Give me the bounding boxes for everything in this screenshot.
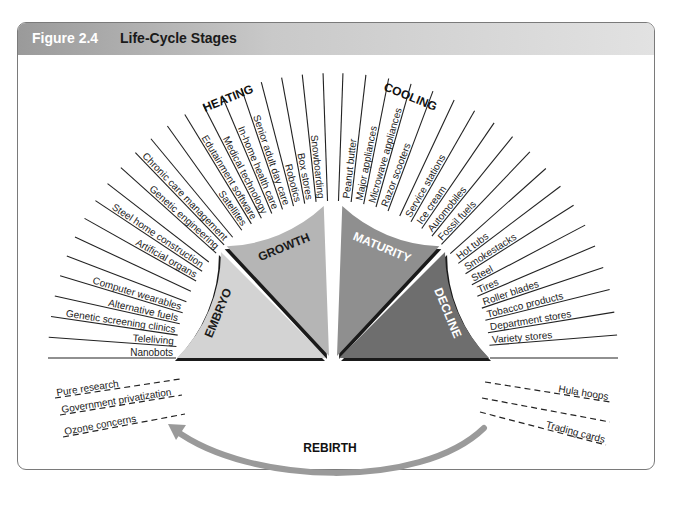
item-label: Nanobots (130, 347, 173, 358)
life-cycle-diagram: EMBRYOGROWTHMATURITYDECLINE NanobotsTele… (0, 0, 674, 512)
rebirth-item-label: Hula hoops (558, 383, 610, 402)
radial-line (458, 186, 560, 263)
rebirth-item-label: Trading cards (545, 419, 607, 445)
rebirth-item-label: Ozone concerns (63, 413, 137, 437)
rebirth-right-items: Hula hoopsTrading cards (480, 382, 610, 445)
rebirth-left-items: Pure researchGovernment privatizationOzo… (55, 378, 185, 437)
rebirth-item-label: Pure research (56, 378, 120, 398)
rebirth-dashed-line (482, 398, 610, 422)
rebirth-label: REBIRTH (303, 441, 356, 455)
rebirth-section: REBIRTH Pure researchGovernment privatiz… (55, 378, 610, 473)
radial-line (432, 137, 513, 236)
